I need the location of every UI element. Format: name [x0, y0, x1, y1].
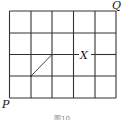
figure-caption: 图10: [54, 115, 70, 120]
label-x: X: [79, 49, 89, 62]
label-p: P: [1, 98, 10, 111]
diagonal-segment: [31, 55, 52, 77]
grid-diagram: X Q P 图10: [0, 0, 123, 120]
label-q: Q: [112, 0, 121, 12]
grid-lines: [10, 11, 117, 98]
node-dot: [30, 75, 32, 77]
